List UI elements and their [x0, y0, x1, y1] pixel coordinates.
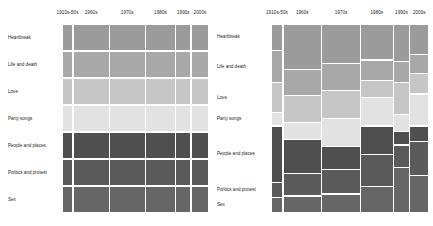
left-mosaic-plot	[62, 24, 209, 213]
row-label-people-and-places: People and places	[217, 151, 255, 157]
mosaic-cell	[74, 133, 109, 159]
mosaic-cell	[410, 74, 428, 94]
mosaic-cell	[146, 106, 175, 132]
mosaic-cell	[63, 187, 73, 213]
mosaic-cell	[361, 25, 393, 60]
row-label-politics-and-protest: Politics and protest	[217, 187, 256, 193]
mosaic-cell	[192, 160, 209, 186]
mosaic-cell	[110, 25, 145, 51]
mosaic-cell	[110, 106, 145, 132]
mosaic-cell	[74, 187, 109, 213]
mosaic-cell	[146, 25, 175, 51]
mosaic-cell	[272, 113, 283, 125]
mosaic-cell	[74, 25, 109, 51]
mosaic-cell	[176, 133, 190, 159]
mosaic-cell	[176, 52, 190, 78]
row-label-people-and-places: People and places	[8, 143, 46, 149]
row-label-love: Love	[217, 95, 227, 101]
mosaic-cell	[410, 25, 428, 54]
mosaic-cell	[146, 52, 175, 78]
mosaic-cell	[322, 195, 360, 213]
mosaic-cell	[410, 55, 428, 73]
mosaic-cell	[192, 133, 209, 159]
mosaic-cell	[63, 52, 73, 78]
mosaic-cell	[284, 96, 322, 121]
mosaic-cell	[192, 187, 209, 213]
mosaic-cell	[410, 127, 428, 141]
mosaic-cell	[361, 127, 393, 154]
mosaic-cell	[176, 160, 190, 186]
mosaic-cell	[284, 123, 322, 139]
mosaic-cell	[322, 170, 360, 193]
mosaic-cell	[176, 25, 190, 51]
mosaic-cell	[110, 160, 145, 186]
mosaic-cell	[192, 52, 209, 78]
mosaic-cell	[272, 51, 283, 82]
mosaic-cell	[284, 140, 322, 173]
mosaic-cell	[322, 91, 360, 118]
row-label-politics-and-protest: Politics and protest	[8, 170, 47, 176]
mosaic-cell	[361, 187, 393, 212]
mosaic-cell	[192, 25, 209, 51]
mosaic-cell	[272, 127, 283, 183]
mosaic-cell	[284, 70, 322, 95]
row-label-life-and-death: Life and death	[8, 62, 37, 68]
mosaic-cell	[394, 83, 409, 114]
mosaic-cell	[272, 83, 283, 112]
mosaic-cell	[63, 79, 73, 105]
mosaic-cell	[394, 25, 409, 62]
mosaic-cell	[74, 106, 109, 132]
mosaic-cell	[284, 197, 322, 213]
right-mosaic-plot	[271, 24, 429, 213]
mosaic-cell	[110, 133, 145, 159]
mosaic-cell	[176, 79, 190, 105]
right-panel: 1910s-50s1960s1970s1980s1990s2000s Heart…	[213, 0, 433, 226]
mosaic-cell	[74, 79, 109, 105]
mosaic-cell	[394, 115, 409, 131]
mosaic-cell	[146, 133, 175, 159]
mosaic-cell	[394, 168, 409, 212]
row-label-party-songs: Party songs	[8, 116, 32, 122]
mosaic-cell	[394, 132, 409, 144]
row-label-sex: Sex	[217, 202, 225, 208]
mosaic-cell	[146, 79, 175, 105]
mosaic-cell	[394, 146, 409, 167]
mosaic-cell	[322, 147, 360, 168]
mosaic-cell	[74, 160, 109, 186]
mosaic-cell	[110, 52, 145, 78]
row-label-heartbreak: Heartbreak	[8, 35, 31, 41]
mosaic-cell	[361, 81, 393, 97]
mosaic-cell	[322, 25, 360, 63]
mosaic-cell	[110, 79, 145, 105]
figure-root: 1910s-50s1960s1970s1980s1990s2000s Heart…	[0, 0, 433, 226]
mosaic-cell	[361, 61, 393, 81]
mosaic-cell	[63, 133, 73, 159]
mosaic-cell	[410, 142, 428, 175]
row-label-sex: Sex	[8, 197, 16, 203]
mosaic-cell	[192, 106, 209, 132]
mosaic-cell	[322, 64, 360, 89]
mosaic-cell	[272, 25, 283, 50]
mosaic-cell	[361, 155, 393, 186]
mosaic-cell	[394, 62, 409, 82]
mosaic-cell	[192, 79, 209, 105]
mosaic-cell	[272, 198, 283, 212]
mosaic-cell	[63, 160, 73, 186]
mosaic-cell	[410, 95, 428, 126]
mosaic-cell	[176, 106, 190, 132]
row-label-love: Love	[8, 89, 18, 95]
row-label-party-songs: Party songs	[217, 116, 241, 122]
mosaic-cell	[284, 25, 322, 69]
mosaic-cell	[272, 183, 283, 197]
row-label-life-and-death: Life and death	[217, 64, 246, 70]
mosaic-cell	[146, 160, 175, 186]
mosaic-cell	[410, 176, 428, 213]
mosaic-cell	[322, 119, 360, 146]
row-label-heartbreak: Heartbreak	[217, 34, 240, 40]
mosaic-cell	[74, 52, 109, 78]
left-panel: 1910s-50s1960s1970s1980s1990s2000s Heart…	[0, 0, 213, 226]
mosaic-cell	[146, 187, 175, 213]
mosaic-cell	[176, 187, 190, 213]
mosaic-cell	[361, 98, 393, 125]
mosaic-cell	[284, 174, 322, 195]
